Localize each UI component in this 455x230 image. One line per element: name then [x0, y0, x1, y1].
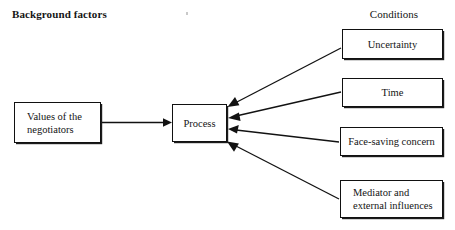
negotiation-process-diagram: Background factors Conditions	[0, 0, 455, 230]
edge-face-saving-to-process	[228, 125, 339, 142]
node-values-of-the-negotiators[interactable]: Values of the negotiators	[14, 102, 101, 143]
node-uncertainty[interactable]: Uncertainty	[342, 29, 443, 59]
node-values-label: Values of the negotiators	[15, 110, 82, 136]
node-face-saving-concern[interactable]: Face-saving concern	[340, 127, 443, 156]
background-factors-heading: Background factors	[12, 8, 107, 20]
node-process-label: Process	[183, 117, 215, 130]
node-mediator-and-external-influences[interactable]: Mediator and external influences	[340, 180, 443, 218]
node-mediator-label: Mediator and external influences	[341, 186, 433, 212]
edge-time-to-process	[228, 92, 341, 121]
edge-uncertainty-to-process	[228, 48, 342, 107]
edge-mediator-to-process	[227, 142, 339, 200]
node-time[interactable]: Time	[342, 78, 443, 107]
node-process[interactable]: Process	[172, 104, 227, 142]
node-time-label: Time	[382, 86, 404, 99]
scan-artifact-speck	[186, 12, 188, 15]
node-face-saving-label: Face-saving concern	[348, 135, 435, 148]
conditions-heading: Conditions	[352, 8, 436, 20]
node-uncertainty-label: Uncertainty	[368, 38, 418, 51]
edge-values-to-process	[101, 118, 172, 127]
